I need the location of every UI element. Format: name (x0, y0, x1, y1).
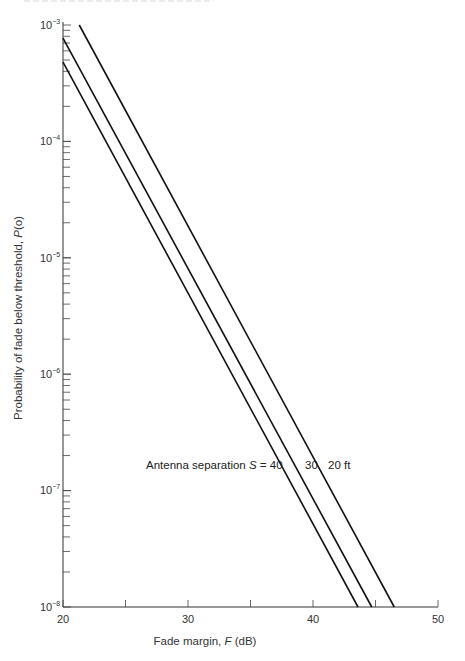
y-tick-labels: 10−3 10−4 10−5 10−6 10−7 10−8 (40, 18, 60, 613)
separation-20-label: 20 ft (328, 459, 351, 471)
series-line-30ft (63, 38, 372, 607)
y-tick-1e-4: 10−4 (40, 134, 60, 147)
series-lines (63, 25, 394, 607)
y-axis-minor-ticks (63, 25, 71, 607)
x-tick-labels: 20 30 40 50 (57, 613, 444, 625)
x-tick-30: 30 (182, 613, 194, 625)
y-axis-title: Probability of fade below threshold, P(o… (12, 216, 24, 420)
y-tick-1e-8: 10−8 (40, 600, 60, 613)
y-tick-1e-7: 10−7 (40, 483, 60, 496)
x-tick-20: 20 (57, 613, 69, 625)
series-line-40ft (63, 62, 358, 607)
x-tick-50: 50 (432, 613, 444, 625)
x-tick-40: 40 (307, 613, 319, 625)
y-tick-1e-5: 10−5 (40, 251, 60, 264)
separation-30-label: 30 (305, 459, 318, 471)
y-tick-1e-6: 10−6 (40, 367, 60, 380)
y-tick-1e-3: 10−3 (40, 18, 60, 31)
x-axis-title: Fade margin, F (dB) (154, 635, 257, 647)
chart: 10−3 10−4 10−5 10−6 10−7 10−8 20 30 40 5… (0, 0, 465, 661)
x-axis-ticks (63, 600, 438, 607)
antenna-separation-label: Antenna separation S = 40 (146, 459, 283, 471)
series-line-20ft (79, 25, 394, 607)
